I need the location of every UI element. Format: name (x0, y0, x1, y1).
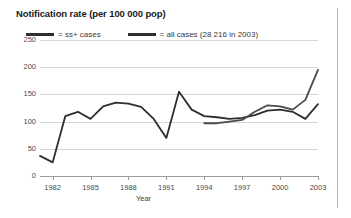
x-tick-label: 2003 (303, 183, 333, 192)
x-tick (166, 176, 167, 180)
x-tick (318, 176, 319, 180)
x-tick-label: 1988 (113, 183, 143, 192)
x-tick (242, 176, 243, 180)
figure-right-rule (337, 8, 338, 208)
x-tick-label: 1985 (76, 183, 106, 192)
chart-title: Notification rate (per 100 000 pop) (16, 8, 166, 19)
y-axis-tick-labels: 050100150200250 (0, 0, 36, 218)
x-tick-label: 1994 (189, 183, 219, 192)
series-line-all-cases (204, 70, 318, 123)
x-axis-title: Year (0, 194, 351, 203)
x-tick-label: 1991 (151, 183, 181, 192)
chart-legend: = ss+ cases = all cases (28 216 in 2003) (26, 24, 258, 36)
y-tick-label: 200 (2, 62, 36, 71)
chart-figure: Notification rate (per 100 000 pop) = ss… (0, 0, 351, 218)
y-tick-label: 50 (2, 144, 36, 153)
legend-label-all-cases: = all cases (28 216 in 2003) (160, 30, 259, 39)
y-tick-label: 0 (2, 171, 36, 180)
plot-area (40, 40, 318, 176)
legend-swatch-all-cases (128, 33, 156, 36)
x-tick (280, 176, 281, 180)
series-line-ss-cases (40, 92, 318, 163)
x-tick-label: 2000 (265, 183, 295, 192)
legend-label-ss-plus-cases: = ss+ cases (58, 30, 101, 39)
y-tick-label: 250 (2, 35, 36, 44)
y-tick-label: 100 (2, 117, 36, 126)
x-axis-title-text: Year (136, 194, 151, 203)
x-axis-line (40, 176, 318, 177)
x-tick (128, 176, 129, 180)
x-tick (53, 176, 54, 180)
x-tick (204, 176, 205, 180)
x-tick-label: 1982 (38, 183, 68, 192)
chart-lines (40, 40, 318, 176)
x-tick (91, 176, 92, 180)
x-tick-label: 1997 (227, 183, 257, 192)
y-tick-label: 150 (2, 89, 36, 98)
